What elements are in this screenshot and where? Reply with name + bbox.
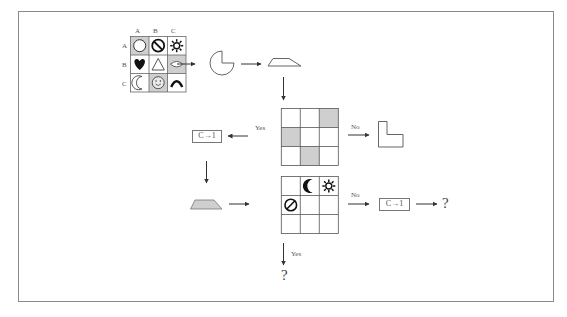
heart-icon (134, 59, 145, 70)
triangle-icon (152, 59, 164, 71)
middle-grid (281, 109, 338, 166)
trapezoid-filled-icon (191, 200, 223, 209)
circle-outline-icon (134, 40, 146, 52)
crescent-filled-icon (303, 179, 313, 193)
prohibited-icon (152, 40, 164, 52)
sun-icon-bottom (322, 180, 335, 193)
smiley-icon (152, 77, 164, 89)
pie-shape-icon (210, 51, 234, 75)
crescent-outline-icon (132, 76, 142, 90)
arch-icon (171, 81, 182, 87)
trapezoid-outline-icon (268, 59, 301, 67)
diagram-graphics (0, 0, 567, 317)
bottom-grid (281, 177, 338, 234)
prohibited-icon-bottom (285, 199, 297, 211)
l-shape-icon (379, 122, 404, 148)
sun-icon (170, 39, 183, 52)
